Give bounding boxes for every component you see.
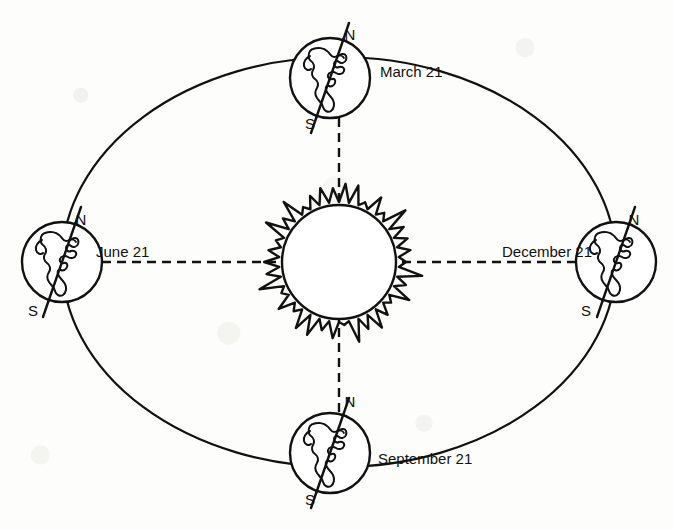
date-label-september: September 21 [378,450,472,467]
sun-group [259,184,422,342]
north-pole-label-june: N [76,211,87,228]
earth-position-june[interactable]: N S June 21 [22,207,149,319]
earth-position-march[interactable]: N S March 21 [290,23,443,133]
earth-globe-march [290,23,370,133]
earth-globe-december [576,207,656,317]
date-label-june: June 21 [96,243,149,260]
earth-position-september[interactable]: N S September 21 [290,393,472,508]
date-label-december: December 21 [502,243,592,260]
south-pole-label-december: S [581,302,591,319]
north-pole-label-september: N [345,393,356,410]
sun-core [282,205,396,319]
south-pole-label-march: S [305,115,315,132]
date-label-march: March 21 [380,63,443,80]
diagram-canvas: N S March 21 N S June 21 N S December 21 [0,0,673,529]
north-pole-label-december: N [629,211,640,228]
south-pole-label-september: S [305,491,315,508]
earth-globe-september [290,398,370,508]
north-pole-label-march: N [345,26,356,43]
earth-orbit-diagram: N S March 21 N S June 21 N S December 21 [0,0,673,529]
south-pole-label-june: S [28,302,38,319]
earth-globe-june [22,207,102,317]
